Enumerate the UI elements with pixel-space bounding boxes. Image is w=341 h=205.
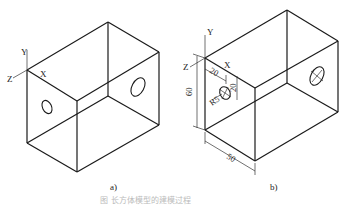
- dim-offset-y-label: 20: [228, 84, 238, 93]
- box-a-right-hole: [128, 75, 148, 98]
- box-b-bottom-right-edge: [255, 112, 338, 161]
- box-a-back-bottom-left: [27, 96, 108, 143]
- axis-a-z-label: Z: [7, 74, 13, 84]
- axis-a-z: [13, 70, 27, 78]
- box-a-top-right-edge: [108, 22, 159, 52]
- dim-depth-label: 50: [225, 151, 237, 164]
- box-b-back-bottom-right: [287, 83, 338, 112]
- axis-a-x-label: X: [40, 69, 47, 79]
- box-b-top-right-edge: [287, 10, 338, 41]
- box-a-left-hole: [40, 99, 54, 115]
- axis-a-y-label: Y: [21, 47, 28, 57]
- box-b-back-bottom-left: [205, 83, 287, 130]
- axis-b-y-label: Y: [207, 27, 214, 37]
- box-a-bottom-right-edge: [77, 125, 159, 172]
- axis-b-x-label: X: [224, 60, 231, 70]
- axis-b-z-label: Z: [183, 62, 189, 72]
- panel-b-axes: Y Z X: [183, 27, 231, 72]
- box-a-top-front-left-edge: [27, 70, 77, 101]
- panel-a-label: a): [110, 182, 117, 192]
- dim-offset-x-label: 20: [208, 65, 220, 78]
- dim-height-line: [193, 54, 205, 130]
- panel-b-box: [205, 10, 338, 161]
- box-b-top-front-right-edge: [255, 41, 338, 88]
- panel-a-box: [27, 22, 159, 172]
- dim-height-label: 60: [184, 88, 194, 97]
- box-a-top-left-edge: [27, 22, 108, 70]
- box-b-right-hole: [307, 64, 327, 87]
- diagram-canvas: Y Z X a) Y Z X 60: [0, 0, 341, 205]
- box-b-top-left-edge: [205, 10, 287, 58]
- figure-caption: 图 长方体模型的建模过程: [100, 195, 191, 205]
- panel-b-label: b): [270, 182, 278, 192]
- box-a-bottom-left-edge: [27, 143, 77, 172]
- axis-b-z: [190, 58, 205, 67]
- panel-b-dimensions: 60 50 20 20 R5: [184, 54, 255, 175]
- box-a-top-front-right-edge: [77, 52, 159, 101]
- box-a-back-bottom-right: [108, 96, 159, 125]
